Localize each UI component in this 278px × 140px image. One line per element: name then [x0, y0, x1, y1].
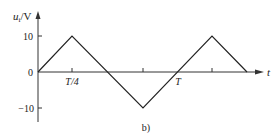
y-axis-label: ui/V: [13, 10, 32, 24]
x-axis-arrow-icon: [255, 70, 264, 75]
triangle-wave-diagram: ui/V 10 0 −10 t T/4 T b): [0, 0, 278, 140]
y-tick-0: 0: [28, 67, 33, 78]
x-tick-t: T: [175, 76, 182, 87]
y-tick-10: 10: [23, 31, 33, 42]
y-axis-arrow-icon: [36, 11, 41, 19]
x-ticks: T/4 T: [65, 68, 212, 87]
x-axis-label: t: [267, 66, 271, 78]
y-tick-minus-10: −10: [18, 103, 34, 114]
x-tick-t-quarter: T/4: [65, 76, 78, 87]
figure-caption: b): [142, 122, 150, 134]
